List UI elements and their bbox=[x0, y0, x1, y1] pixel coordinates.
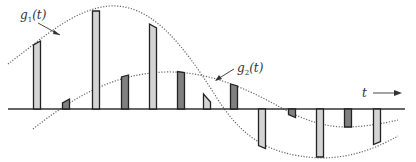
g1-sample-bar-4 bbox=[204, 94, 211, 109]
g1-sample-bar-7 bbox=[374, 109, 381, 145]
svg-text:g1(t): g1(t) bbox=[20, 8, 47, 24]
g1-sample-bar-3 bbox=[150, 24, 157, 109]
time-axis-label: t bbox=[362, 86, 402, 100]
svg-text:g2(t): g2(t) bbox=[237, 61, 264, 77]
g1-sample-bar-1 bbox=[34, 41, 41, 109]
g2-sample-bar-4 bbox=[231, 84, 238, 109]
g2-sample-bar-5 bbox=[289, 109, 296, 118]
sampled-signals-diagram: g1(t) g2(t) t bbox=[0, 0, 416, 162]
g2-sample-bar-6 bbox=[345, 109, 352, 127]
g1-sample-bar-6 bbox=[317, 109, 324, 157]
g1-label: g1(t) bbox=[20, 8, 60, 35]
g1-sample-bars bbox=[34, 11, 381, 157]
g2-arrowhead-icon bbox=[215, 75, 222, 81]
time-arrow-icon bbox=[394, 90, 402, 96]
g1-curve bbox=[8, 6, 398, 158]
g2-sample-bar-2 bbox=[122, 75, 129, 109]
g2-label: g2(t) bbox=[215, 61, 264, 81]
svg-text:t: t bbox=[362, 86, 367, 100]
g1-arrowhead-icon bbox=[53, 30, 60, 35]
g2-sample-bar-3 bbox=[178, 72, 185, 110]
g1-sample-bar-5 bbox=[259, 109, 266, 149]
g2-sample-bar-1 bbox=[63, 99, 70, 109]
g1-sample-bar-2 bbox=[93, 11, 100, 109]
